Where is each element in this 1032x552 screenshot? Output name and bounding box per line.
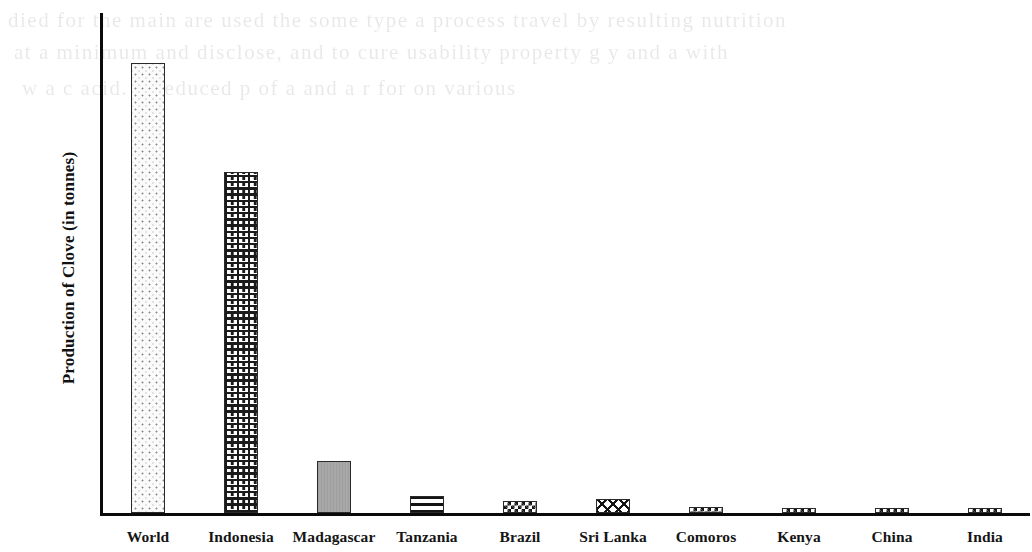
bar [968,508,1002,513]
bar [782,508,816,513]
bar-fill-pattern [225,173,257,512]
plot-area: 020,00040,00060,00080,000100,000120,0001… [100,13,1030,515]
bar [503,501,537,514]
x-axis-line [100,513,1030,516]
bar [410,496,444,513]
bar [875,508,909,513]
y-axis-line [100,13,103,515]
bar [131,63,165,513]
y-axis-title: Production of Clove (in tonnes) [59,103,79,433]
bar [596,499,630,513]
bar [224,172,258,513]
bar [689,507,723,513]
bar [317,461,351,513]
x-axis-tick-label: India [915,528,1032,546]
bar-chart-figure: Production of Clove (in tonnes) 020,0004… [0,0,1032,552]
